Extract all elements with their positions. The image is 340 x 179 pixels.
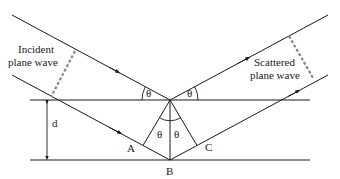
bragg-diagram: d θ θ θ θ A B C Incident plane wave Scat… bbox=[0, 0, 340, 179]
angle-arc-upper-right bbox=[195, 87, 198, 100]
theta-upper-right: θ bbox=[187, 87, 192, 99]
upper-scattered-arrow bbox=[238, 58, 248, 63]
incident-label-line1: Incident bbox=[18, 43, 54, 55]
theta-lower-left: θ bbox=[157, 128, 162, 140]
scattered-label-line2: plane wave bbox=[250, 69, 300, 81]
point-b-label: B bbox=[166, 165, 173, 177]
lower-incident-arrow bbox=[110, 128, 120, 133]
lower-scattered-arrow bbox=[288, 91, 298, 97]
point-c-label: C bbox=[205, 141, 212, 153]
point-a-label: A bbox=[127, 142, 135, 154]
upper-incident-arrow bbox=[110, 68, 118, 72]
incident-label-line2: plane wave bbox=[8, 56, 58, 68]
angle-arc-upper-left bbox=[142, 87, 145, 100]
theta-lower-right: θ bbox=[174, 128, 179, 140]
theta-upper-left: θ bbox=[146, 87, 151, 99]
spacing-label: d bbox=[52, 117, 58, 129]
scattered-label-line1: Scattered bbox=[254, 56, 295, 68]
